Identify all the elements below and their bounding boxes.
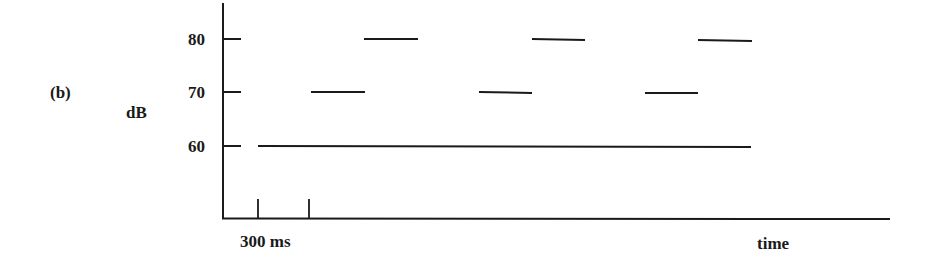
segment-80-3 xyxy=(698,40,752,41)
segment-70-2 xyxy=(479,92,532,93)
x-axis xyxy=(222,219,890,220)
segment-60-baseline xyxy=(258,146,751,147)
chart-plot xyxy=(0,0,938,258)
segment-80-2 xyxy=(532,39,585,40)
